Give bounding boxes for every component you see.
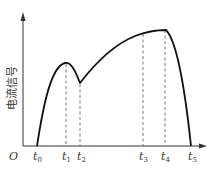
tick-label-t3: t3 [139,150,148,164]
tick-label-t0: t0 [33,150,42,164]
svg-text:电流信号: 电流信号 [5,66,19,110]
y-axis-arrow-icon [21,12,26,21]
y-axis-label: 电流信号 [5,66,19,110]
tick-label-t1: t1 [62,150,71,164]
current-signal-diagram: 电流信号 O t0 t1 t2 t3 t4 t5 [0,0,210,169]
signal-curve [37,30,191,146]
tick-label-t4: t4 [161,150,170,164]
x-axis-arrow-icon [199,144,207,149]
tick-label-t5: t5 [188,150,197,164]
tick-label-t2: t2 [77,150,86,164]
origin-label: O [9,150,18,163]
